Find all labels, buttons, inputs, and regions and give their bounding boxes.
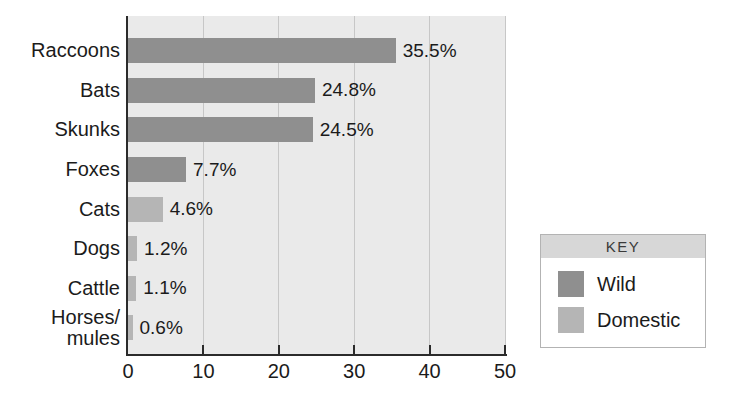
legend-entry-label: Wild <box>597 273 636 296</box>
bar-row: Skunks24.5% <box>4 110 505 150</box>
legend-swatch <box>558 271 584 297</box>
value-label: 1.2% <box>144 238 187 260</box>
value-label: 4.6% <box>170 198 213 220</box>
legend-entry-label: Domestic <box>597 309 680 332</box>
x-tick-label: 20 <box>268 360 290 383</box>
category-label: Cattle <box>4 278 128 299</box>
value-label: 35.5% <box>403 40 457 62</box>
legend-title: KEY <box>541 235 705 258</box>
x-axis-labels: 01020304050 <box>128 360 505 386</box>
value-label: 24.8% <box>322 79 376 101</box>
legend-body: WildDomestic <box>541 258 705 347</box>
x-axis-line <box>126 354 507 356</box>
category-label: Bats <box>4 80 128 101</box>
category-label: Horses/ mules <box>4 307 128 349</box>
category-label: Cats <box>4 199 128 220</box>
value-label: 1.1% <box>143 277 186 299</box>
bar <box>128 157 186 182</box>
bar-track: 1.1% <box>128 276 505 301</box>
bar-track: 7.7% <box>128 157 505 182</box>
legend-entry: Wild <box>558 271 695 297</box>
bar <box>128 78 315 103</box>
x-tick-label: 30 <box>343 360 365 383</box>
bar <box>128 315 133 340</box>
bar-row: Cats4.6% <box>4 189 505 229</box>
bar-track: 1.2% <box>128 236 505 261</box>
legend: KEY WildDomestic <box>540 234 706 348</box>
bar-row: Foxes7.7% <box>4 150 505 190</box>
value-label: 24.5% <box>320 119 374 141</box>
bar <box>128 236 137 261</box>
legend-swatch <box>558 307 584 333</box>
category-label: Dogs <box>4 238 128 259</box>
value-label: 7.7% <box>193 159 236 181</box>
bar <box>128 117 313 142</box>
bar-track: 24.5% <box>128 117 505 142</box>
bar-chart-figure: Raccoons35.5%Bats24.8%Skunks24.5%Foxes7.… <box>0 0 742 401</box>
bar-track: 0.6% <box>128 315 505 340</box>
category-label: Raccoons <box>4 40 128 61</box>
bar-row: Raccoons35.5% <box>4 31 505 71</box>
x-tick-label: 50 <box>494 360 516 383</box>
category-label: Skunks <box>4 119 128 140</box>
bar-track: 4.6% <box>128 197 505 222</box>
bar-track: 24.8% <box>128 78 505 103</box>
category-label: Foxes <box>4 159 128 180</box>
bar-row: Horses/ mules0.6% <box>4 308 505 348</box>
bar-row: Dogs1.2% <box>4 229 505 269</box>
bar-row: Bats24.8% <box>4 71 505 111</box>
bar <box>128 38 396 63</box>
x-tick-label: 40 <box>418 360 440 383</box>
bar <box>128 197 163 222</box>
value-label: 0.6% <box>140 317 183 339</box>
bar <box>128 276 136 301</box>
bar-rows: Raccoons35.5%Bats24.8%Skunks24.5%Foxes7.… <box>4 31 505 348</box>
bar-row: Cattle1.1% <box>4 269 505 309</box>
bar-track: 35.5% <box>128 38 505 63</box>
legend-entry: Domestic <box>558 307 695 333</box>
x-tick-label: 10 <box>192 360 214 383</box>
x-tick-label: 0 <box>122 360 133 383</box>
